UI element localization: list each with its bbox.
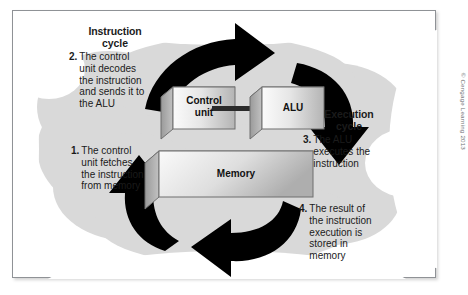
step-3-number: 3. <box>303 134 311 146</box>
step-1: 1. The control unit fetches the instruct… <box>71 145 171 192</box>
control-unit-label: Control unit <box>173 95 235 118</box>
step-2: 2. The control unit decodes the instruct… <box>69 51 169 110</box>
instruction-cycle-heading: Instruction cycle <box>67 25 163 50</box>
step-1-number: 1. <box>71 145 79 157</box>
step-3: 3. The ALU executes the instruction <box>303 134 401 169</box>
step-2-number: 2. <box>69 51 77 63</box>
copyright-credit: © Cengage Learning 2013 <box>460 73 467 150</box>
step-4-text: The result of the instruction execution … <box>309 203 399 262</box>
step-4: 4. The result of the instruction executi… <box>299 203 399 262</box>
step-4-number: 4. <box>299 203 307 215</box>
memory-label: Memory <box>159 168 313 180</box>
step-3-text: The ALU executes the instruction <box>313 134 401 169</box>
step-2-text: The control unit decodes the instruction… <box>79 51 169 110</box>
figure-frame: Instruction cycle 2. The control unit de… <box>12 10 436 278</box>
alu-label: ALU <box>262 102 324 114</box>
step-1-text: The control unit fetches the instruction… <box>81 145 171 192</box>
figure-root: Instruction cycle 2. The control unit de… <box>0 0 468 295</box>
